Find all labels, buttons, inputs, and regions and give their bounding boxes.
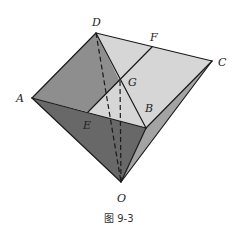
figure-caption: 图 9-3 xyxy=(104,213,134,224)
label-g: G xyxy=(128,76,137,89)
label-b: B xyxy=(144,102,153,115)
label-c: C xyxy=(218,56,227,69)
label-a: A xyxy=(15,92,24,105)
label-o: O xyxy=(117,192,126,205)
label-e: E xyxy=(82,119,91,132)
pyramid-diagram: D F C G A B E O 图 9-3 xyxy=(0,0,238,225)
label-f: F xyxy=(149,31,158,44)
label-d: D xyxy=(91,16,101,29)
